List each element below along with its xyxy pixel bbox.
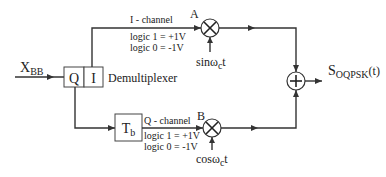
demultiplexer-block: Q I [64, 67, 103, 87]
a-summer-arrow [293, 65, 299, 72]
q-channel-label: Q - channel [144, 115, 191, 126]
demux-q-label: Q [69, 71, 79, 86]
i-channel-arrow [194, 25, 201, 31]
q-channel-logic1: logic 1 = +1V [144, 130, 201, 141]
i-channel-logic1: logic 1 = +1V [130, 31, 187, 42]
sin-carrier-label: sinωct [196, 55, 226, 71]
output-arrow [315, 78, 322, 84]
multiplier-a [201, 19, 219, 37]
q-channel-wire [75, 87, 115, 128]
demux-label: Demultiplexer [108, 71, 177, 85]
node-b-label: B [197, 109, 205, 123]
oqpsk-block-diagram: XBB Q I Demultiplexer I - channel logic … [0, 0, 386, 177]
demux-i-label: I [91, 71, 96, 86]
q-channel-logic0: logic 0 = -1V [144, 141, 198, 152]
input-arrow [47, 74, 54, 80]
i-channel-logic0: logic 0 = -1V [130, 42, 184, 53]
a-path-arrow [248, 25, 255, 31]
input-label: XBB [20, 60, 44, 77]
a-to-summer-wire [219, 28, 296, 72]
b-path-arrow [251, 125, 258, 131]
cos-carrier-label: cosωct [196, 152, 228, 168]
q-channel-arrow [108, 125, 115, 131]
b-summer-arrow [293, 90, 299, 97]
cos-carrier-arrow [209, 137, 215, 143]
output-label: SOQPSK(t) [328, 63, 380, 80]
sin-carrier-arrow [207, 37, 213, 43]
summer [287, 72, 305, 90]
multiplier-b [203, 119, 221, 137]
b-to-summer-wire [221, 90, 296, 128]
node-a-label: A [190, 7, 199, 21]
i-channel-label: I - channel [130, 14, 173, 25]
